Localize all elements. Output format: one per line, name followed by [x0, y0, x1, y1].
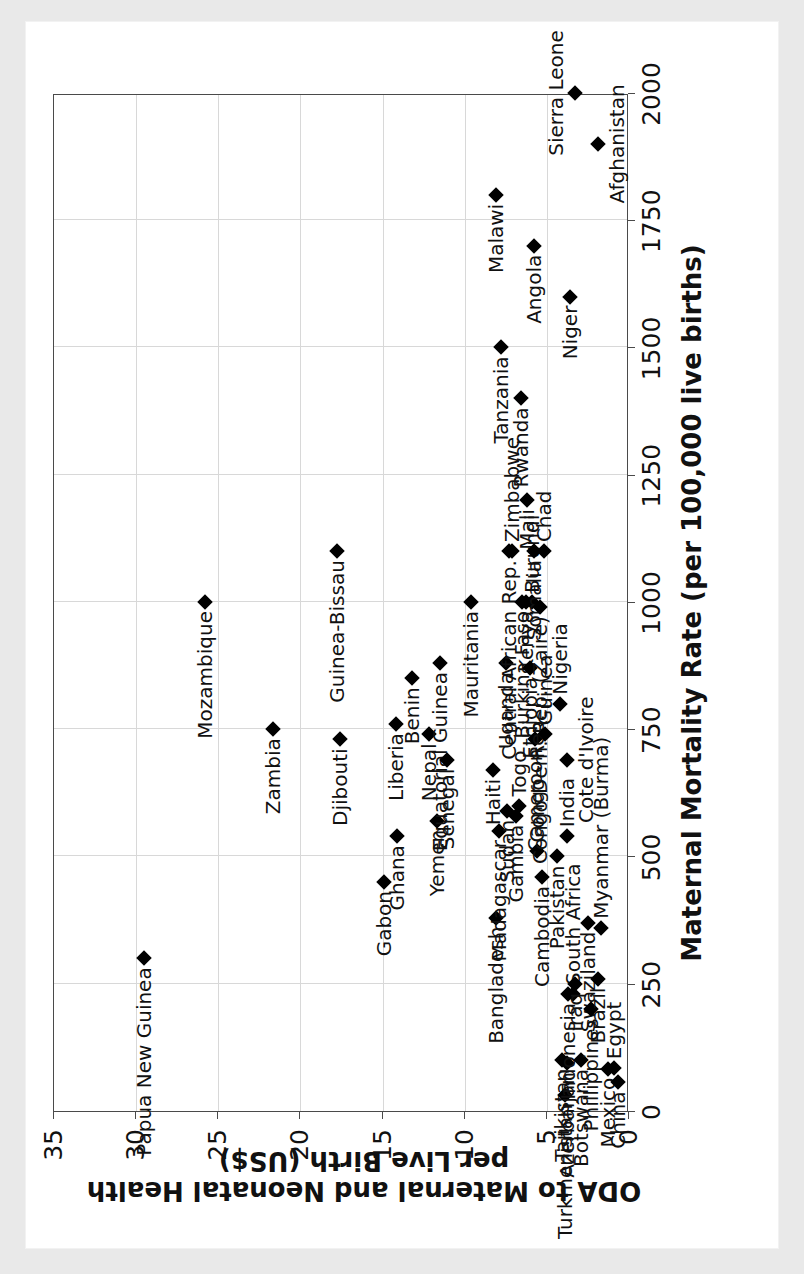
data-point-label: Egypt — [604, 1002, 624, 1060]
data-point[interactable] — [559, 752, 575, 768]
data-point[interactable] — [513, 391, 529, 407]
data-point-label: Malawi — [486, 204, 506, 273]
data-point[interactable] — [562, 289, 578, 305]
data-point-label: Nigeria — [550, 623, 570, 695]
data-point[interactable] — [432, 655, 448, 671]
x-tick-mark — [628, 729, 635, 730]
x-tick-mark — [628, 602, 635, 603]
x-tick-mark — [628, 984, 635, 985]
x-tick-mark — [628, 93, 635, 94]
gridline-horizontal — [383, 95, 384, 1111]
data-point[interactable] — [265, 721, 281, 737]
data-point-label: Djibouti — [330, 748, 350, 826]
data-point-label: Afghanistan — [607, 84, 627, 203]
y-tick-label: 35 — [39, 1129, 68, 1161]
scatter-plot-figure: Papua New GuineaMozambiqueZambiaGuinea-B… — [37, 40, 767, 1230]
y-tick-mark — [628, 1112, 629, 1119]
y-tick-mark — [217, 1112, 218, 1119]
scanned-page-background: Papua New GuineaMozambiqueZambiaGuinea-B… — [0, 0, 804, 1274]
x-tick-label: 250 — [637, 961, 666, 1009]
data-point-label: Tanzania — [491, 357, 511, 444]
gridline-horizontal — [218, 95, 219, 1111]
gridline-vertical — [54, 347, 627, 348]
data-point[interactable] — [197, 594, 213, 610]
data-point-label: India — [557, 778, 577, 827]
data-point[interactable] — [493, 340, 509, 356]
data-point-label: Haiti — [483, 779, 503, 825]
y-tick-mark — [382, 1112, 383, 1119]
data-point[interactable] — [332, 732, 348, 748]
data-point-label: Mauritania — [461, 611, 481, 718]
data-point[interactable] — [526, 238, 542, 254]
y-tick-mark — [299, 1112, 300, 1119]
data-point[interactable] — [590, 136, 606, 152]
data-point-label: Zambia — [263, 738, 283, 814]
data-point[interactable] — [329, 543, 345, 559]
gridline-vertical — [54, 474, 627, 475]
x-tick-mark — [628, 220, 635, 221]
data-point[interactable] — [485, 762, 501, 778]
data-point[interactable] — [488, 187, 504, 203]
data-point[interactable] — [559, 828, 575, 844]
data-point[interactable] — [464, 594, 480, 610]
data-point-label: Guinea-Bissau — [327, 560, 347, 703]
data-point[interactable] — [567, 85, 583, 101]
data-point-label: Rwanda — [511, 407, 531, 487]
x-axis-title: Maternal Mortality Rate (per 100,000 liv… — [677, 94, 707, 1112]
x-tick-mark — [628, 857, 635, 858]
x-tick-label: 1000 — [637, 571, 666, 635]
x-tick-label: 1750 — [637, 189, 666, 253]
y-tick-mark — [53, 1112, 54, 1119]
y-tick-label: 0 — [614, 1129, 643, 1145]
x-tick-mark — [628, 1111, 635, 1112]
x-tick-label: 500 — [637, 834, 666, 882]
data-point[interactable] — [390, 828, 406, 844]
data-point-label: Benin — [402, 687, 422, 744]
data-point-label: Papua New Guinea — [134, 967, 154, 1155]
y-tick-mark — [135, 1112, 136, 1119]
data-point-label: Angola — [524, 255, 544, 324]
data-point-label: Sierra Leone — [546, 30, 566, 156]
plot-area: Papua New GuineaMozambiqueZambiaGuinea-B… — [53, 94, 628, 1112]
data-point-label: Senegal — [437, 769, 457, 850]
data-point-label: Chad — [534, 491, 554, 543]
y-tick-mark — [464, 1112, 465, 1119]
x-tick-mark — [628, 348, 635, 349]
data-point-label: Mozambique — [195, 611, 215, 739]
data-point[interactable] — [404, 671, 420, 687]
x-tick-label: 2000 — [637, 62, 666, 126]
gridline-vertical — [54, 219, 627, 220]
x-tick-label: 0 — [637, 1104, 666, 1120]
data-point-label: Ghana — [387, 845, 407, 910]
rotated-figure-wrapper: Papua New GuineaMozambiqueZambiaGuinea-B… — [37, 40, 767, 1230]
data-point[interactable] — [137, 951, 153, 967]
x-tick-label: 750 — [637, 706, 666, 754]
y-tick-label: 5 — [531, 1129, 560, 1145]
data-point-label: Niger — [560, 306, 580, 360]
x-tick-mark — [628, 475, 635, 476]
x-tick-label: 1250 — [637, 444, 666, 508]
y-tick-mark — [546, 1112, 547, 1119]
data-point-label: Myanmar (Burma) — [591, 737, 611, 919]
gridline-horizontal — [300, 95, 301, 1111]
document-sheet: Papua New GuineaMozambiqueZambiaGuinea-B… — [26, 22, 778, 1248]
x-tick-label: 1500 — [637, 317, 666, 381]
y-axis-title: ODA to Maternal and Neonatal Health per … — [77, 1146, 652, 1206]
